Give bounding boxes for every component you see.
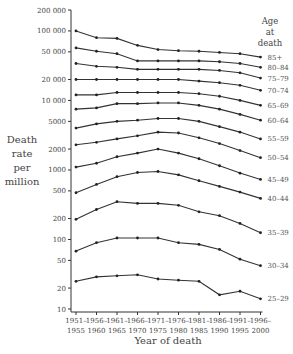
svg-text:Death: Death <box>7 134 38 145</box>
data-point <box>116 120 119 123</box>
data-point <box>95 275 98 278</box>
data-point <box>239 290 242 293</box>
y-tick-label: 50 <box>57 257 66 265</box>
y-tick-label: 100 000 <box>37 27 66 35</box>
data-point <box>218 293 221 296</box>
data-point <box>116 175 119 178</box>
data-point <box>136 91 139 94</box>
data-point <box>239 222 242 225</box>
data-point <box>177 91 180 94</box>
series-line <box>75 117 262 140</box>
data-point <box>239 191 242 194</box>
data-point <box>177 152 180 155</box>
y-tick-label: 200 <box>53 215 66 223</box>
y-tick-label: 2000 <box>48 146 66 154</box>
data-point <box>198 157 201 160</box>
data-point <box>239 149 242 152</box>
y-tick-label: 20 000 <box>42 76 67 84</box>
data-point <box>239 99 242 102</box>
data-point <box>75 166 78 169</box>
series-label: 35–39 <box>268 229 289 237</box>
data-point <box>259 178 262 181</box>
data-point <box>239 62 242 65</box>
data-point <box>259 89 262 92</box>
data-point <box>218 108 221 111</box>
y-tick-label: 200 000 <box>37 7 66 15</box>
data-point <box>259 137 262 140</box>
data-point <box>75 191 78 194</box>
series-line <box>75 62 262 79</box>
data-point <box>157 131 160 134</box>
data-point <box>259 197 262 200</box>
data-point <box>116 237 119 240</box>
series-labels: 85+80–8475–7970–7465–6960–6455–5950–5445… <box>268 54 290 304</box>
data-point <box>198 50 201 53</box>
data-point <box>218 125 221 128</box>
data-point <box>198 92 201 95</box>
data-point <box>198 80 201 83</box>
x-tick-label-bottom: 1960 <box>88 327 106 335</box>
data-point <box>116 52 119 55</box>
data-point <box>75 143 78 146</box>
x-tick-label-bottom: 1955 <box>67 327 85 335</box>
data-point <box>218 60 221 63</box>
x-tick-label-top: 1986– <box>209 317 231 325</box>
data-point <box>198 280 201 283</box>
data-point <box>136 60 139 63</box>
data-point <box>177 60 180 63</box>
data-point <box>116 155 119 158</box>
data-point <box>198 120 201 123</box>
data-point <box>198 104 201 107</box>
data-point <box>95 241 98 244</box>
data-point <box>116 102 119 105</box>
data-point <box>75 46 78 49</box>
data-point <box>95 78 98 81</box>
x-tick-label-top: 1976– <box>168 317 190 325</box>
data-point <box>157 78 160 81</box>
data-point <box>157 202 160 205</box>
data-point <box>95 122 98 125</box>
data-point <box>95 94 98 97</box>
data-point <box>136 237 139 240</box>
data-point <box>116 274 119 277</box>
data-point <box>218 248 221 251</box>
series-label: 45–49 <box>268 176 289 184</box>
x-tick-label-bottom: 1975 <box>149 327 167 335</box>
x-tick-label-top: 1956– <box>86 317 108 325</box>
data-point <box>157 60 160 63</box>
x-tick-label-bottom: 1995 <box>231 327 249 335</box>
data-point <box>259 77 262 80</box>
y-tick-label: 100 <box>53 236 66 244</box>
data-point <box>259 66 262 69</box>
data-point <box>218 69 221 72</box>
data-point <box>239 52 242 55</box>
data-point <box>157 170 160 173</box>
data-point <box>75 94 78 97</box>
data-point <box>136 68 139 71</box>
x-tick-label-top: 1961– <box>106 317 128 325</box>
y-tick-label: 5000 <box>48 118 66 126</box>
data-point <box>95 107 98 110</box>
data-point <box>239 131 242 134</box>
x-tick-label-bottom: 1985 <box>190 327 208 335</box>
x-tick-label-top: 1991– <box>229 317 251 325</box>
series-line <box>75 200 262 234</box>
data-point <box>116 91 119 94</box>
data-point <box>259 156 262 159</box>
data-point <box>177 78 180 81</box>
y-tick-label: 1000 <box>48 166 66 174</box>
data-point <box>116 137 119 140</box>
svg-text:per: per <box>13 162 30 173</box>
data-point <box>116 78 119 81</box>
x-tick-label-top: 1996– <box>250 317 272 325</box>
data-point <box>177 102 180 105</box>
data-point <box>116 200 119 203</box>
data-point <box>136 119 139 122</box>
data-point <box>75 218 78 221</box>
svg-text:Age: Age <box>261 16 279 26</box>
data-point <box>198 210 201 213</box>
data-point <box>95 208 98 211</box>
data-point <box>239 84 242 87</box>
series-label: 30–34 <box>268 262 290 270</box>
data-point <box>75 108 78 111</box>
